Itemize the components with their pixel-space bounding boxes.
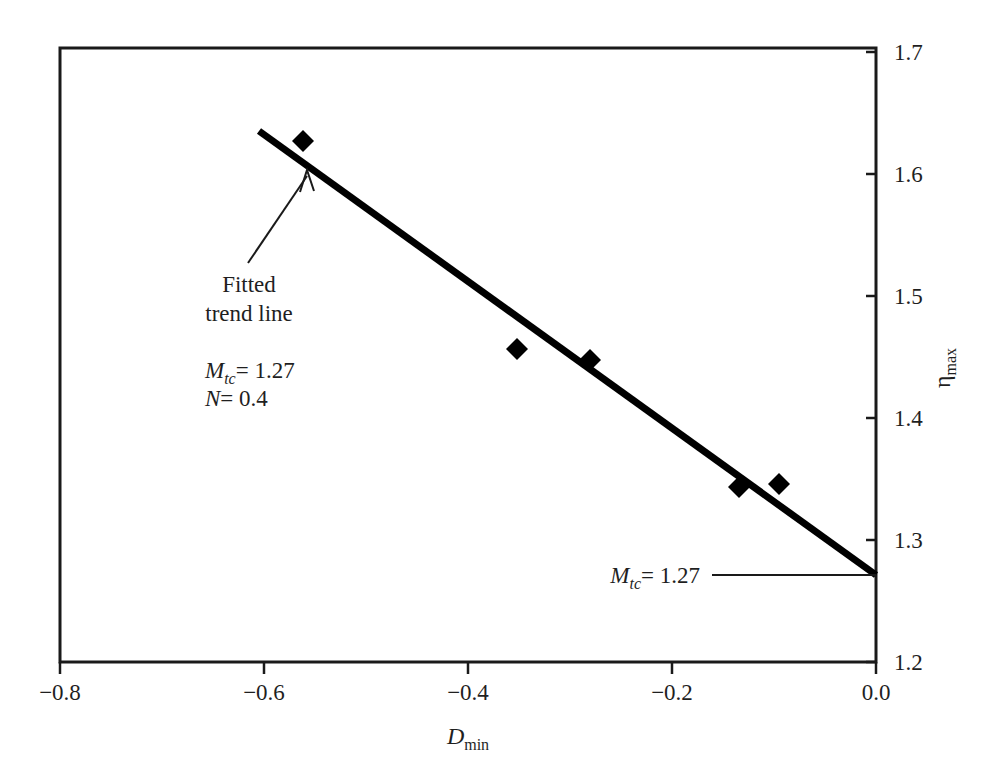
y-axis-title: ηmax	[929, 348, 959, 388]
x-tick-label-1: −0.6	[243, 680, 285, 705]
fitted-trend-line-label-line2: trend line	[205, 301, 293, 326]
param-n-symbol: N	[204, 386, 222, 411]
intercept-subscript: tc	[629, 575, 641, 592]
x-tick-label-4: 0.0	[862, 680, 891, 705]
svg-text:Dmin: Dmin	[446, 723, 489, 753]
y-tick-label-3: 1.5	[894, 284, 923, 309]
y-axis-title-sub: max	[942, 348, 959, 376]
y-tick-label-2: 1.4	[894, 406, 923, 431]
svg-text:Mtc= 1.27: Mtc= 1.27	[204, 358, 295, 387]
x-tick-label-3: −0.2	[651, 680, 693, 705]
svg-text:Mtc= 1.27: Mtc= 1.27	[609, 563, 700, 592]
y-tick-label-5: 1.7	[894, 40, 923, 65]
intercept-equals: = 1.27	[641, 563, 700, 588]
x-tick-label-0: −0.8	[39, 680, 81, 705]
svg-text:N= 0.4: N= 0.4	[204, 386, 268, 411]
fitted-trend-line-label-line1: Fitted	[222, 272, 276, 297]
x-tick-label-2: −0.4	[447, 680, 489, 705]
intercept-symbol: M	[609, 563, 631, 588]
x-axis-title: Dmin	[446, 723, 489, 753]
y-axis-title-base: η	[929, 375, 955, 388]
y-tick-label-4: 1.6	[894, 162, 923, 187]
param-m-subscript: tc	[224, 370, 236, 387]
chart-figure: −0.8 −0.6 −0.4 −0.2 0.0 1.2 1.3 1.4 1.5 …	[0, 0, 1000, 770]
svg-text:ηmax: ηmax	[929, 348, 959, 388]
scatter-plot-svg: −0.8 −0.6 −0.4 −0.2 0.0 1.2 1.3 1.4 1.5 …	[0, 0, 1000, 770]
x-axis-title-base: D	[446, 723, 464, 749]
x-axis-ticks	[60, 662, 876, 674]
param-m-equals: = 1.27	[236, 358, 295, 383]
y-tick-label-0: 1.2	[894, 650, 923, 675]
plot-frame	[60, 48, 876, 662]
param-n-equals: = 0.4	[220, 386, 268, 411]
param-m-symbol: M	[204, 358, 226, 383]
x-axis-title-sub: min	[464, 736, 489, 753]
y-tick-label-1: 1.3	[894, 528, 923, 553]
